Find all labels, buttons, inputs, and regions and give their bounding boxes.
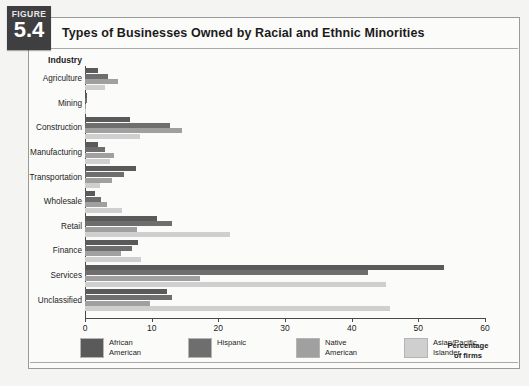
y-axis-label-mining: Mining	[58, 99, 82, 108]
y-axis-header: Industry	[48, 55, 82, 65]
bottom-divider	[30, 362, 518, 363]
legend-swatch-icon	[296, 338, 320, 358]
bar-manufacturing-native-american	[85, 153, 114, 158]
legend-swatch-icon	[80, 338, 104, 358]
bar-retail-native-american	[85, 227, 137, 232]
x-tick-0	[85, 318, 86, 322]
bar-services-african-american	[85, 265, 444, 270]
x-tick-50	[418, 318, 419, 322]
bar-construction-hispanic	[85, 123, 170, 128]
bar-services-native-american	[85, 276, 200, 281]
bar-construction-african-american	[85, 117, 130, 122]
y-axis-labels: IndustryAgricultureMiningConstructionMan…	[0, 0, 82, 386]
x-tick-10	[152, 318, 153, 322]
legend-label: Hispanic	[217, 338, 246, 348]
y-axis-label-transportation: Transportation	[30, 173, 83, 182]
x-tick-label-0: 0	[83, 323, 88, 333]
plot-area	[85, 66, 485, 316]
bar-transportation-native-american	[85, 178, 112, 183]
bar-agriculture-hispanic	[85, 74, 108, 79]
bar-agriculture-native-american	[85, 79, 118, 84]
y-axis-label-agriculture: Agriculture	[43, 74, 82, 83]
bar-retail-asian-pacific-islander	[85, 232, 230, 237]
chart-legend: African AmericanHispanicNative AmericanA…	[80, 336, 410, 368]
bar-transportation-african-american	[85, 166, 136, 171]
x-tick-label-10: 10	[147, 323, 156, 333]
x-tick-40	[352, 318, 353, 322]
bar-retail-african-american	[85, 216, 157, 221]
x-tick-label-20: 20	[214, 323, 223, 333]
bar-mining-asian-pacific-islander	[85, 109, 86, 114]
bar-wholesale-african-american	[85, 191, 95, 196]
x-tick-20	[218, 318, 219, 322]
figure-badge-number: 5.4	[7, 18, 51, 42]
y-axis-label-wholesale: Wholesale	[44, 197, 82, 206]
bar-services-hispanic	[85, 270, 368, 275]
bar-wholesale-asian-pacific-islander	[85, 208, 122, 213]
bar-mining-african-american	[85, 93, 87, 98]
bar-agriculture-african-american	[85, 68, 98, 73]
title-divider	[30, 48, 518, 49]
bar-unclassified-african-american	[85, 289, 167, 294]
x-tick-label-40: 40	[347, 323, 356, 333]
bar-retail-hispanic	[85, 221, 172, 226]
y-axis-label-retail: Retail	[61, 222, 82, 231]
legend-swatch-icon	[188, 338, 212, 358]
y-axis-label-unclassified: Unclassified	[38, 296, 82, 305]
x-tick-label-30: 30	[280, 323, 289, 333]
bar-finance-native-american	[85, 251, 121, 256]
bar-mining-native-american	[85, 104, 86, 109]
bar-finance-asian-pacific-islander	[85, 257, 141, 262]
legend-label: Native American	[325, 338, 357, 357]
figure-container: FIGURE 5.4 Types of Businesses Owned by …	[0, 0, 529, 386]
y-axis-label-services: Services	[51, 271, 82, 280]
bar-manufacturing-african-american	[85, 142, 98, 147]
bar-manufacturing-asian-pacific-islander	[85, 159, 110, 164]
legend-swatch-icon	[404, 338, 428, 358]
figure-title: Types of Businesses Owned by Racial and …	[62, 26, 425, 40]
bar-unclassified-asian-pacific-islander	[85, 306, 390, 311]
bar-transportation-hispanic	[85, 172, 124, 177]
bar-construction-native-american	[85, 128, 182, 133]
x-tick-60	[485, 318, 486, 322]
y-axis-label-manufacturing: Manufacturing	[30, 148, 82, 157]
bar-wholesale-native-american	[85, 202, 107, 207]
bar-finance-hispanic	[85, 246, 132, 251]
bar-manufacturing-hispanic	[85, 147, 105, 152]
bar-services-asian-pacific-islander	[85, 282, 386, 287]
bar-unclassified-hispanic	[85, 295, 172, 300]
bar-construction-asian-pacific-islander	[85, 134, 140, 139]
y-axis-label-finance: Finance	[53, 246, 82, 255]
y-axis-label-construction: Construction	[36, 123, 82, 132]
bar-agriculture-asian-pacific-islander	[85, 85, 105, 90]
x-tick-30	[285, 318, 286, 322]
bar-wholesale-hispanic	[85, 197, 101, 202]
x-tick-label-60: 60	[480, 323, 489, 333]
bar-unclassified-native-american	[85, 301, 150, 306]
bar-mining-hispanic	[85, 98, 87, 103]
bar-finance-african-american	[85, 240, 138, 245]
legend-label: African American	[109, 338, 141, 357]
x-axis-title: Percentage of firms	[432, 341, 504, 360]
x-tick-label-50: 50	[414, 323, 423, 333]
bar-transportation-asian-pacific-islander	[85, 183, 100, 188]
figure-badge: FIGURE 5.4	[7, 6, 51, 50]
